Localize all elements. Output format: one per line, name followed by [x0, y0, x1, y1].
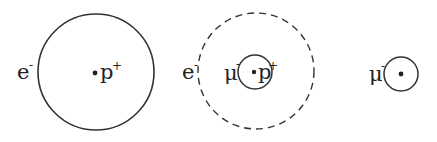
atom-diagram: e - p + e - μ - p + μ -: [0, 0, 437, 142]
electron-orbit-dashed: [198, 13, 314, 129]
hydrogen-atom-panel: e - p +: [17, 14, 154, 130]
proton-charge: +: [268, 59, 278, 73]
nucleus-dot: [399, 72, 404, 77]
electron-charge: -: [194, 58, 198, 72]
muonic-hydrogen-panel: e - μ - p +: [182, 13, 314, 129]
proton-dot: [93, 71, 98, 76]
muon-charge: -: [236, 57, 240, 71]
muon-charge: -: [381, 59, 385, 73]
electron-label: e: [182, 60, 194, 84]
electron-label: e: [17, 60, 29, 84]
proton-charge: +: [112, 59, 122, 73]
muon-orbit-panel: μ -: [369, 57, 418, 91]
proton-dot: [252, 70, 256, 74]
electron-charge: -: [29, 58, 33, 72]
